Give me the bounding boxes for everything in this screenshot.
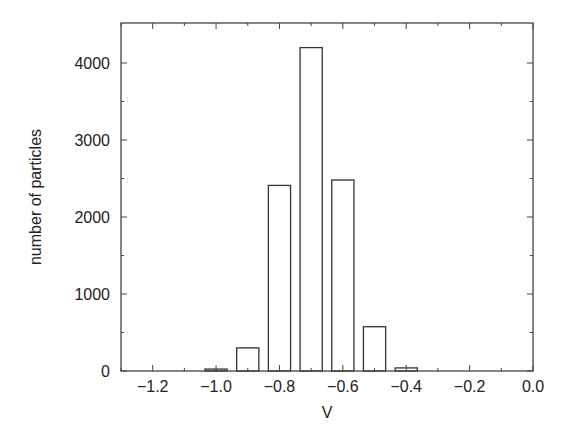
y-tick-label: 3000 (74, 132, 110, 149)
x-tick-label: −0.4 (390, 378, 422, 395)
x-tick-label: −1.0 (200, 378, 232, 395)
histogram-bar (300, 48, 322, 371)
y-tick-label: 0 (101, 363, 110, 380)
x-tick-label: −0.8 (264, 378, 296, 395)
histogram-chart: −1.2−1.0−0.8−0.6−0.4−0.20.0 010002000300… (0, 0, 568, 444)
axis-ticks (121, 23, 533, 371)
y-tick-labels: 01000200030004000 (74, 55, 110, 380)
bars-group (205, 48, 417, 371)
x-tick-label: −0.6 (327, 378, 359, 395)
y-tick-label: 2000 (74, 209, 110, 226)
plot-frame (121, 23, 533, 371)
histogram-bar (268, 185, 290, 371)
y-tick-label: 1000 (74, 286, 110, 303)
x-tick-label: 0.0 (522, 378, 544, 395)
histogram-bar (237, 348, 259, 371)
x-tick-label: −0.2 (454, 378, 486, 395)
histogram-bar (332, 180, 354, 371)
histogram-bar (363, 327, 385, 371)
x-tick-label: −1.2 (137, 378, 169, 395)
x-tick-labels: −1.2−1.0−0.8−0.6−0.4−0.20.0 (137, 378, 544, 395)
y-axis-label: number of particles (27, 129, 44, 265)
x-axis-label: V (322, 404, 333, 421)
y-tick-label: 4000 (74, 55, 110, 72)
